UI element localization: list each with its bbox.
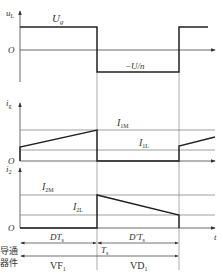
ig-I1M-label: I1M — [116, 117, 129, 129]
panel-ig: ig O I1M I1L — [6, 98, 215, 166]
i2-I2M-label: I2M — [41, 181, 54, 193]
svg-text:D′Ts: D′Ts — [128, 232, 145, 243]
interval-annotations: DTs D′Ts Ts — [21, 232, 178, 256]
uL-high-label: Ug — [52, 12, 64, 26]
svg-text:O: O — [8, 156, 15, 166]
row-label-line1: 导通 — [0, 246, 18, 256]
device-on-label: VF1 — [50, 260, 66, 272]
uL-ylabel: uL — [6, 8, 15, 19]
ig-trace — [20, 130, 215, 161]
flyback-waveform-diagram: uL O Ug −U/n ig O I1M I1L i2 O I2M I2L t… — [0, 0, 223, 279]
svg-text:ig: ig — [6, 98, 12, 109]
svg-text:Ts: Ts — [101, 245, 109, 256]
svg-text:DTs: DTs — [49, 232, 65, 243]
uL-trace — [20, 27, 208, 72]
conduction-row: 导通 器件 VF1 VD1 — [0, 246, 147, 272]
device-off-label: VD1 — [130, 260, 147, 272]
svg-text:O: O — [8, 223, 15, 233]
time-axis-label: t — [214, 232, 217, 242]
i2-I2L-label: I2L — [72, 201, 83, 213]
panel-i2: i2 O I2M I2L t — [6, 164, 217, 242]
uL-origin: O — [8, 45, 15, 55]
uL-low-label: −U/n — [125, 61, 145, 71]
row-label-line2: 器件 — [0, 257, 18, 268]
panel-uL: uL O Ug −U/n — [6, 8, 215, 82]
ig-I1L-label: I1L — [138, 137, 149, 149]
i2-trace — [20, 195, 179, 228]
